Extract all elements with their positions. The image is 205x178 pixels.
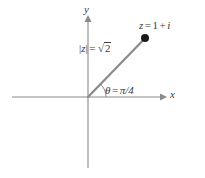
x-axis-label: x (170, 89, 175, 100)
x-axis-arrowhead (160, 93, 167, 100)
angle-label: θ=π/4 (105, 85, 134, 96)
y-axis-arrowhead (84, 15, 91, 22)
radicand: 2 (104, 42, 112, 54)
complex-plane-figure: z=1+i |z|=√2 θ=π/4 x y (0, 0, 205, 178)
modulus-equals: = (88, 42, 97, 54)
point-label-imaginary: i (167, 19, 170, 31)
point-label-z: z=1+i (139, 20, 170, 31)
y-axis-label: y (84, 4, 89, 15)
angle-equals: = (110, 84, 119, 96)
angle-value: π/4 (120, 84, 134, 96)
modulus-label: |z|=√2 (79, 42, 111, 54)
point-marker-z (141, 34, 149, 42)
radical-group: √2 (97, 42, 112, 54)
point-label-plus: + (158, 19, 167, 31)
point-label-equals: = (143, 19, 152, 31)
